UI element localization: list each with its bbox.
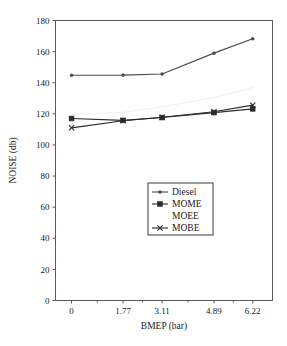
- series-mome: [69, 106, 255, 122]
- marker-dot: [161, 73, 164, 76]
- y-tick-label: 80: [41, 171, 51, 181]
- marker-dot: [159, 191, 162, 194]
- x-tick-label: 1.77: [115, 306, 131, 316]
- series-line: [72, 87, 253, 114]
- legend-item-moee[interactable]: MOEE: [172, 211, 199, 221]
- legend: DieselMOMEMOEEMOBE: [148, 183, 213, 235]
- y-tick-label: 180: [36, 16, 50, 26]
- y-axis-title: NOISE (db): [8, 137, 19, 183]
- series-line: [72, 39, 253, 76]
- y-tick-label: 120: [36, 109, 50, 119]
- plot-frame: [56, 21, 273, 301]
- legend-label: MOEE: [172, 211, 199, 221]
- legend-label: MOME: [172, 199, 202, 209]
- marker-dot: [122, 74, 125, 77]
- x-tick-label: 4.89: [206, 306, 222, 316]
- y-tick-label: 100: [36, 140, 50, 150]
- y-axis: 020406080100120140160180: [36, 16, 56, 306]
- marker-dot: [70, 74, 73, 77]
- x-tick-label: 3.11: [154, 306, 169, 316]
- x-axis: 01.773.114.896.22: [69, 301, 260, 316]
- legend-label: Diesel: [172, 187, 197, 197]
- marker-dot: [251, 37, 254, 40]
- y-tick-label: 60: [41, 202, 51, 212]
- y-tick-label: 160: [36, 47, 50, 57]
- noise-vs-bmep-chart: 02040608010012014016018001.773.114.896.2…: [0, 0, 287, 346]
- legend-label: MOBE: [172, 223, 200, 233]
- series-diesel: [70, 37, 254, 77]
- y-tick-label: 0: [45, 296, 50, 306]
- y-tick-label: 140: [36, 78, 50, 88]
- figure-container: 02040608010012014016018001.773.114.896.2…: [0, 0, 287, 346]
- x-axis-title: BMEP (bar): [141, 321, 187, 332]
- series-moee: [72, 87, 253, 114]
- marker-square: [69, 116, 74, 121]
- x-tick-label: 6.22: [245, 306, 261, 316]
- y-tick-label: 20: [41, 265, 51, 275]
- y-tick-label: 40: [41, 233, 51, 243]
- marker-dot: [212, 52, 215, 55]
- marker-square: [158, 202, 163, 207]
- x-tick-label: 0: [69, 306, 74, 316]
